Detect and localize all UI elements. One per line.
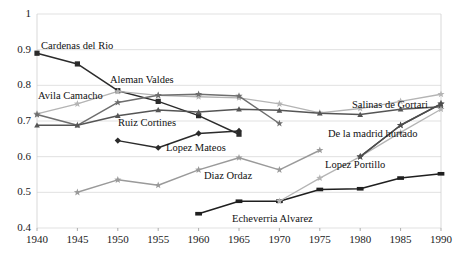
x-tick-label: 1945 (55, 233, 99, 245)
data-point-marker (438, 172, 445, 176)
data-point-marker (156, 99, 161, 104)
data-point-marker (74, 100, 81, 107)
y-tick-label: 0.8 (0, 78, 31, 90)
data-point-marker (195, 212, 202, 216)
series-annotation-label: Salinas de Gortari (352, 99, 428, 110)
data-point-marker (195, 130, 201, 136)
x-tick-label: 1960 (177, 233, 221, 245)
y-tick-label: 0.5 (0, 185, 31, 197)
series-annotation-label: Ruiz Cortines (118, 117, 176, 128)
x-tick-label: 1975 (298, 233, 342, 245)
y-tick-label: 0.9 (0, 43, 31, 55)
data-point-marker (236, 199, 243, 203)
data-point-marker (115, 137, 121, 143)
data-point-marker (114, 176, 121, 183)
data-point-marker (397, 176, 404, 180)
data-point-marker (195, 166, 202, 173)
x-tick-label: 1940 (15, 233, 59, 245)
data-point-marker (34, 51, 39, 56)
data-point-marker (235, 154, 242, 161)
data-point-marker (276, 197, 283, 204)
series-annotation-label: Diaz Ordaz (204, 170, 252, 181)
x-tick-label: 1965 (217, 233, 261, 245)
series-annotation-label: Cardenas del Rio (41, 40, 113, 51)
series-annotation-label: Lopez Mateos (166, 142, 226, 153)
data-point-marker (155, 92, 162, 99)
x-tick-label: 1980 (338, 233, 382, 245)
data-point-marker (276, 100, 283, 107)
x-tick-label: 1990 (419, 233, 457, 245)
y-tick-label: 0.4 (0, 221, 31, 233)
x-tick-label: 1970 (257, 233, 301, 245)
series-annotation-label: Aleman Valdes (110, 74, 174, 85)
data-point-marker (357, 187, 364, 191)
data-point-marker (155, 181, 162, 188)
x-tick-label: 1950 (96, 233, 140, 245)
data-point-marker (276, 166, 283, 173)
series-annotation-label: Echeverria Alvarez (232, 213, 313, 224)
series-diaz-ordaz (74, 146, 324, 195)
series-annotation-label: Lopez Portillo (325, 159, 385, 170)
data-point-marker (316, 188, 323, 192)
x-tick-label: 1985 (379, 233, 423, 245)
data-point-marker (74, 189, 81, 196)
data-point-marker (75, 61, 80, 66)
y-tick-label: 0.7 (0, 114, 31, 126)
y-tick-label: 0.6 (0, 150, 31, 162)
data-point-marker (155, 145, 161, 151)
series-annotation-label: De la madrid hurtado (328, 128, 418, 139)
y-tick-label: 1 (0, 7, 31, 19)
x-tick-label: 1955 (136, 233, 180, 245)
series-annotation-label: Avila Camacho (38, 90, 103, 101)
